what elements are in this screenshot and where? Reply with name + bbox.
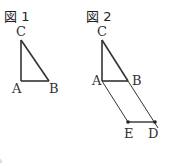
point-d xyxy=(153,120,157,124)
figure-2-triangle xyxy=(102,40,128,81)
figure-2-label-b: B xyxy=(132,73,142,88)
footnote-mark: 。 xyxy=(0,150,8,165)
figure-1-label-b: B xyxy=(49,81,59,96)
figure-2-label-e: E xyxy=(124,126,134,141)
figure-2-parallel-lines xyxy=(102,81,158,128)
figure-1-triangle xyxy=(21,40,49,81)
figure-2-label-d: D xyxy=(148,126,158,141)
figure-2-label-c: C xyxy=(97,24,107,39)
figure-1-label-c: C xyxy=(16,24,26,39)
point-e xyxy=(126,120,130,124)
figure-1-label-a: A xyxy=(12,81,21,96)
figure-2-label-a: A xyxy=(92,73,101,88)
